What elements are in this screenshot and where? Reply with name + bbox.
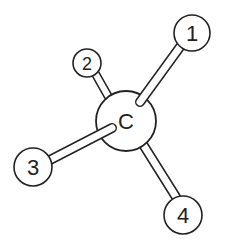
bond-c-2 — [95, 73, 108, 96]
bond-c-4 — [144, 146, 176, 197]
diagram-canvas: 2 4 C 1 3 — [0, 0, 226, 250]
atom-3: 3 — [14, 148, 52, 186]
atom-4: 4 — [164, 196, 202, 234]
bond-c-1 — [140, 47, 180, 102]
carbon-label: C — [118, 109, 134, 134]
atom-2: 2 — [73, 49, 101, 77]
atom-1-label: 1 — [186, 21, 198, 46]
tetrahedral-carbon-diagram: 2 4 C 1 3 — [0, 0, 226, 250]
bond-c-3 — [50, 128, 112, 160]
atom-1: 1 — [174, 15, 210, 51]
atom-2-label: 2 — [82, 54, 92, 74]
atom-3-label: 3 — [27, 155, 39, 180]
atom-4-label: 4 — [177, 203, 189, 228]
